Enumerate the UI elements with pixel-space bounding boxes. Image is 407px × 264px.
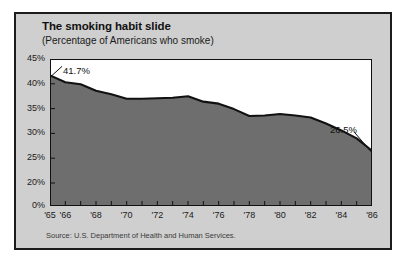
page-title: The smoking habit slide bbox=[42, 20, 171, 32]
x-axis-tick-label: '86 bbox=[366, 210, 378, 220]
x-axis-tick-label: '76 bbox=[213, 210, 225, 220]
x-axis-tick-label: '80 bbox=[274, 210, 286, 220]
chart-page: The smoking habit slide (Percentage of A… bbox=[0, 0, 407, 264]
y-axis-tick-label: 25% bbox=[17, 152, 45, 162]
plot-area bbox=[50, 59, 372, 206]
chart-subtitle: (Percentage of Americans who smoke) bbox=[42, 35, 214, 46]
y-axis-tick-label: 20% bbox=[17, 177, 45, 187]
y-axis-tick-label: 40% bbox=[17, 78, 45, 88]
x-axis-tick-label: '84 bbox=[335, 210, 347, 220]
y-axis-tick-label: 30% bbox=[17, 127, 45, 137]
x-axis-tick-label: '70 bbox=[121, 210, 133, 220]
annotation-value-start: 41.7% bbox=[63, 65, 90, 76]
annotation-value-end: 26.5% bbox=[330, 124, 357, 135]
x-axis-tick-label: '66 bbox=[59, 210, 71, 220]
x-axis-tick-label: '82 bbox=[305, 210, 317, 220]
x-axis-tick-label: '65 bbox=[44, 210, 56, 220]
y-axis-tick-label: 35% bbox=[17, 103, 45, 113]
x-axis-tick-label: '78 bbox=[243, 210, 255, 220]
area-chart-svg bbox=[50, 59, 372, 206]
x-axis-tick-label: '68 bbox=[90, 210, 102, 220]
source-note: Source: U.S. Department of Health and Hu… bbox=[46, 231, 236, 240]
y-axis-tick-label: 45% bbox=[17, 53, 45, 63]
y-axis-tick-label: 0% bbox=[17, 200, 45, 210]
x-axis-tick-label: '74 bbox=[182, 210, 194, 220]
x-axis-tick-label: '72 bbox=[151, 210, 163, 220]
